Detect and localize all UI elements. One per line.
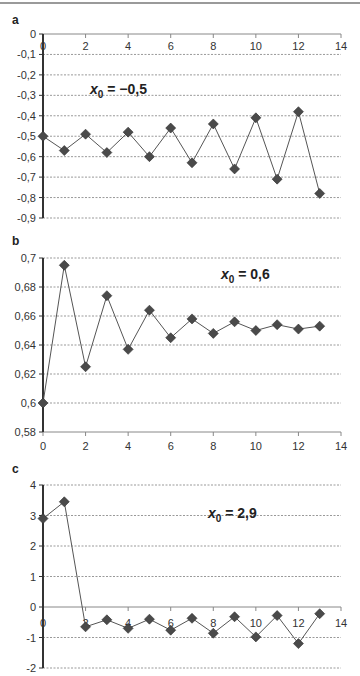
x-tick-label: 12 (292, 40, 304, 52)
data-point-marker (59, 146, 69, 156)
data-point-marker (187, 613, 197, 623)
x-tick-label: 12 (292, 617, 304, 629)
panel-label-c: c (12, 462, 19, 476)
data-point-marker (293, 107, 303, 117)
x-tick-label: 4 (125, 40, 131, 52)
data-point-marker (293, 639, 303, 649)
x-tick-label: 0 (40, 440, 46, 452)
data-point-marker (123, 344, 133, 354)
x-tick-label: 8 (210, 40, 216, 52)
y-tick-label: 2 (30, 540, 36, 552)
data-point-marker (102, 291, 112, 301)
y-tick-label: 0,64 (15, 339, 36, 351)
y-tick-label: -0,2 (17, 69, 36, 81)
x-tick-label: 8 (210, 617, 216, 629)
y-tick-label: -2 (26, 662, 36, 674)
x-tick-label: 2 (83, 440, 89, 452)
data-point-marker (251, 113, 261, 123)
x-tick-label: 8 (210, 440, 216, 452)
data-point-marker (315, 321, 325, 331)
data-point-marker (293, 324, 303, 334)
data-point-marker (38, 131, 48, 141)
x-tick-label: 6 (168, 40, 174, 52)
series-line (43, 502, 320, 644)
annotation-c: x0 = 2,9 (207, 505, 257, 524)
data-point-marker (208, 328, 218, 338)
data-point-marker (144, 305, 154, 315)
y-tick-label: -0,9 (17, 212, 36, 224)
y-tick-label: 0 (30, 28, 36, 40)
x-tick-label: 14 (335, 440, 347, 452)
chart-c: 43210-1-202468101214 (26, 479, 347, 674)
data-point-marker (166, 123, 176, 133)
y-tick-label: 0 (30, 601, 36, 613)
x-tick-label: 10 (250, 40, 262, 52)
y-tick-label: 1 (30, 571, 36, 583)
y-tick-label: 0,62 (15, 368, 36, 380)
y-tick-label: 0,68 (15, 281, 36, 293)
figure: a b c 0-0,1-0,2-0,3-0,4-0,5-0,6-0,7-0,8-… (0, 0, 360, 676)
x-tick-label: 14 (335, 617, 347, 629)
x-tick-label: 12 (292, 440, 304, 452)
panel-label-b: b (12, 234, 19, 248)
y-tick-label: -0,5 (17, 130, 36, 142)
x-tick-label: 4 (125, 440, 131, 452)
y-tick-label: -0,7 (17, 171, 36, 183)
data-point-marker (144, 614, 154, 624)
y-tick-label: 0,66 (15, 310, 36, 322)
data-point-marker (38, 398, 48, 408)
data-point-marker (208, 628, 218, 638)
y-tick-label: 0,58 (15, 426, 36, 438)
y-tick-label: -1 (26, 632, 36, 644)
x-tick-label: 6 (168, 440, 174, 452)
data-point-marker (102, 615, 112, 625)
data-point-marker (230, 317, 240, 327)
chart-b: 0,70,680,660,640,620,60,5802468101214 (15, 252, 348, 452)
annotation-a: x0 = −0,5 (89, 81, 147, 100)
data-point-marker (315, 609, 325, 619)
x-tick-label: 10 (250, 440, 262, 452)
data-point-marker (272, 174, 282, 184)
data-point-marker (251, 326, 261, 336)
data-point-marker (315, 188, 325, 198)
y-tick-label: 0,7 (21, 252, 36, 264)
y-tick-label: -0,3 (17, 89, 36, 101)
y-tick-label: -0,4 (17, 110, 36, 122)
series-line (43, 265, 320, 403)
data-point-marker (208, 119, 218, 129)
data-point-marker (272, 320, 282, 330)
y-tick-label: -0,6 (17, 151, 36, 163)
y-tick-label: 4 (30, 479, 36, 491)
data-point-marker (59, 497, 69, 507)
x-tick-label: 14 (335, 40, 347, 52)
x-tick-label: 2 (83, 40, 89, 52)
y-tick-label: -0,8 (17, 192, 36, 204)
data-point-marker (81, 362, 91, 372)
chart-a: 0-0,1-0,2-0,3-0,4-0,5-0,6-0,7-0,8-0,9024… (17, 28, 347, 224)
panel-label-a: a (12, 13, 19, 27)
data-point-marker (230, 164, 240, 174)
y-tick-label: 0,6 (21, 397, 36, 409)
data-point-marker (187, 158, 197, 168)
y-tick-label: 3 (30, 510, 36, 522)
y-tick-label: -0,1 (17, 48, 36, 60)
x-tick-label: 10 (250, 617, 262, 629)
annotation-b: x0 = 0,6 (220, 266, 270, 285)
data-point-marker (59, 260, 69, 270)
